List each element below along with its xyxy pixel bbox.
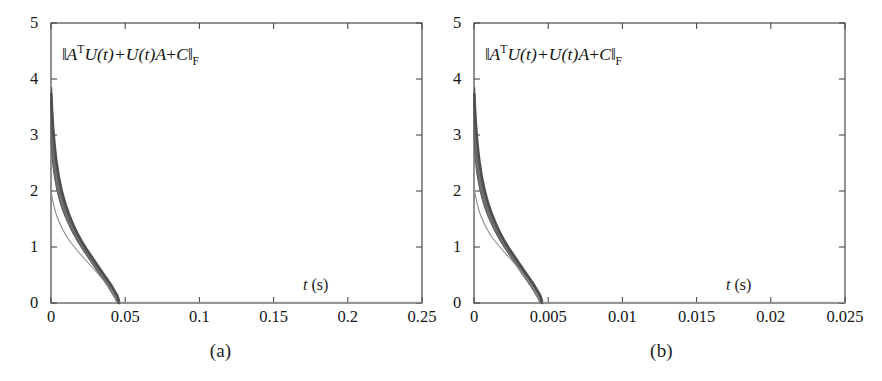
plot-annotation-b: ‖ATU(t)+U(t)A+C‖F (485, 44, 622, 65)
U-open-a: U( (84, 44, 103, 64)
frobenius-sub-b: F (615, 55, 622, 67)
plot-annotation-a: ‖ATU(t)+U(t)A+C‖F (62, 44, 199, 65)
x-tick-label-5-a: 0.25 (408, 307, 437, 327)
y-tick-label-2-a: 2 (30, 181, 38, 201)
x-tick-label-1-a: 0.05 (111, 307, 140, 327)
x-axis-label-t-a: t (303, 276, 307, 293)
x-tick-label-4-b: 0.02 (756, 307, 785, 327)
x-axis-label-unit-a: (s) (311, 276, 328, 293)
y-tick-label-5-b: 5 (453, 13, 461, 33)
x-tick-label-1-b: 0.005 (530, 307, 567, 327)
y-tick-label-2-b: 2 (453, 181, 461, 201)
plus-sign-a: + (166, 44, 176, 64)
x-tick-label-0-b: 0 (470, 307, 478, 327)
frobenius-sub-a: F (192, 55, 199, 67)
x-tick-label-3-b: 0.015 (678, 307, 715, 327)
panel-b: ‖ATU(t)+U(t)A+C‖F t (s) 0 1 2 3 4 5 0 0.… (441, 0, 882, 381)
y-tick-label-1-b: 1 (453, 237, 461, 257)
y-tick-label-0-a: 0 (30, 293, 38, 313)
matrix-A2-a: A (155, 44, 166, 64)
plus-sign-b: + (589, 44, 599, 64)
y-tick-label-4-a: 4 (30, 69, 38, 89)
panel-caption-a: (a) (0, 340, 441, 362)
x-tick-label-4-a: 0.2 (337, 307, 358, 327)
x-axis-label-t-b: t (726, 276, 730, 293)
x-axis-label-unit-b: (s) (734, 276, 751, 293)
figure-container: ‖ATU(t)+U(t)A+C‖F t (s) 0 1 2 3 4 5 0 0.… (0, 0, 882, 381)
U2-open-a: U( (126, 44, 145, 64)
matrix-A-a: A (66, 44, 77, 64)
x-tick-label-3-a: 0.15 (259, 307, 288, 327)
x-axis-label-a: t (s) (303, 276, 328, 294)
panel-a: ‖ATU(t)+U(t)A+C‖F t (s) 0 1 2 3 4 5 0 0.… (0, 0, 441, 381)
U-close-a: )+ (108, 44, 126, 64)
matrix-C-b: C (599, 44, 611, 64)
matrix-C-a: C (176, 44, 188, 64)
y-tick-label-5-a: 5 (30, 13, 38, 33)
x-tick-label-5-b: 0.025 (826, 307, 863, 327)
y-tick-label-1-a: 1 (30, 237, 38, 257)
plot-frame-a (51, 23, 422, 303)
x-tick-label-2-a: 0.1 (189, 307, 210, 327)
plot-frame-b (474, 23, 845, 303)
U-close-b: )+ (531, 44, 549, 64)
y-tick-label-0-b: 0 (453, 293, 461, 313)
x-tick-label-2-b: 0.01 (608, 307, 637, 327)
panel-caption-b: (b) (441, 340, 882, 362)
U-open-b: U( (507, 44, 526, 64)
y-tick-label-3-a: 3 (30, 125, 38, 145)
y-tick-label-4-b: 4 (453, 69, 461, 89)
x-axis-label-b: t (s) (726, 276, 751, 294)
matrix-A2-b: A (578, 44, 589, 64)
matrix-A-b: A (489, 44, 500, 64)
x-tick-label-0-a: 0 (47, 307, 55, 327)
U2-open-b: U( (549, 44, 568, 64)
y-tick-label-3-b: 3 (453, 125, 461, 145)
